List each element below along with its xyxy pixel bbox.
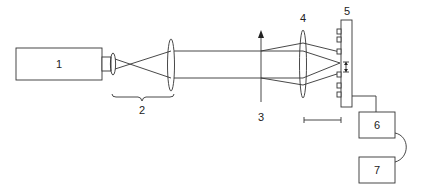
computer-box: 7 <box>359 157 395 183</box>
label-4: 4 <box>300 12 306 24</box>
beam-split <box>261 43 303 85</box>
brace <box>112 94 174 101</box>
label-7: 7 <box>374 164 380 176</box>
label-5: 5 <box>344 5 350 17</box>
focused-beams <box>303 43 340 85</box>
sample-plate: 5 <box>337 5 352 107</box>
cable-controller-computer <box>395 133 406 162</box>
label-2: 2 <box>139 104 145 116</box>
controller-box: 6 <box>359 112 395 138</box>
focusing-lens: 4 <box>300 12 307 98</box>
label-3: 3 <box>258 111 264 123</box>
beam-axis-arrow: 3 <box>258 30 264 123</box>
laser-aperture <box>102 57 111 71</box>
arrow-up-icon <box>258 30 264 38</box>
optical-setup-diagram: 1 2 3 4 5 <box>0 0 422 196</box>
collimating-lens <box>168 39 175 91</box>
collimated-beam <box>174 51 261 78</box>
label-1: 1 <box>56 58 62 70</box>
beam-expander: 2 <box>110 39 174 116</box>
scale-bar <box>304 117 341 123</box>
wire-plate-controller <box>352 96 376 112</box>
laser-source: 1 <box>16 48 111 80</box>
label-6: 6 <box>374 119 380 131</box>
